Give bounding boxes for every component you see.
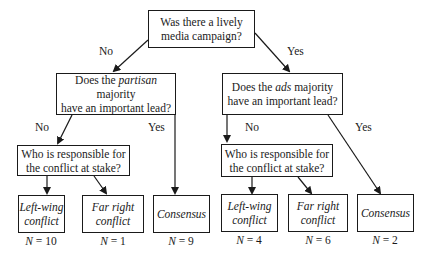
leaf-line2: conflict [92,214,135,228]
q-ads-pre: Does the [232,81,275,93]
edge-label-left-no: No [35,121,49,133]
leaf-far-right-conflict-partisan: Far rightconflict [82,195,144,233]
left-responsible-question-box: Who is responsible for the conflict at s… [17,145,130,176]
q-ads-post: majority [291,81,333,93]
q-partisan-post: majority [97,88,136,100]
edge-label-root-yes: Yes [287,45,304,57]
leaf-consensus-partisan: Consensus [153,195,210,233]
root-question-box: Was there a lively media campaign? [148,10,255,48]
q-partisan-em: partisan [119,74,157,86]
root-question-line2: media campaign? [160,29,242,43]
leaf-far-right-conflict-ads: Far rightconflict [288,194,348,232]
q-partisan-pre: Does the [75,74,118,86]
left-q3-line2: the conflict at stake? [21,161,125,175]
q-ads-line2: have an important lead? [227,94,337,108]
leaf-line2: conflict [19,214,63,228]
leaf-line2: conflict [297,213,340,227]
n-count: N = 6 [283,234,353,246]
leaf-line1: Consensus [157,207,206,221]
ads-lead-question-box: Does the ads majority have an important … [222,73,343,115]
edge-label-left-yes: Yes [148,121,165,133]
leaf-left-wing-conflict-partisan: Left-wingconflict [18,195,65,233]
n-count: N = 4 [214,234,284,246]
leaf-line2: conflict [227,213,271,227]
partisan-lead-question-box: Does the partisan majority have an impor… [56,73,176,115]
right-responsible-question-box: Who is responsible for the conflict at s… [221,144,333,177]
left-q3-line1: Who is responsible for [21,147,125,161]
leaf-line1: Left-wing [19,200,63,214]
leaf-line1: Consensus [361,206,410,220]
leaf-line1: Far right [297,199,340,213]
leaf-line1: Left-wing [227,199,271,213]
edge-label-root-no: No [99,45,113,57]
right-q3-line1: Who is responsible for [225,147,329,161]
n-count: N = 9 [146,235,216,247]
n-count: N = 10 [6,235,76,247]
q-ads-em: ads [275,81,291,93]
n-count: N = 2 [350,234,420,246]
leaf-line1: Far right [92,200,135,214]
edge-label-right-no: No [245,121,259,133]
q-partisan-line2: have an important lead? [57,101,175,115]
leaf-consensus-ads: Consensus [357,194,414,232]
n-count: N = 1 [78,235,148,247]
right-q3-line2: the conflict at stake? [225,161,329,175]
leaf-left-wing-conflict-ads: Left-wingconflict [221,194,278,232]
edge-label-right-yes: Yes [355,121,372,133]
root-question-line1: Was there a lively [160,15,242,29]
